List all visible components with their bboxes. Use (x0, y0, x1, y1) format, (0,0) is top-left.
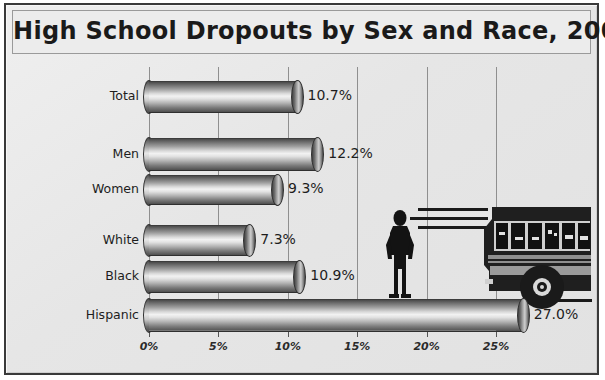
motion-lines-icon (410, 208, 488, 229)
category-label: Black (22, 268, 139, 283)
category-label: Women (22, 181, 139, 196)
x-axis-tick-label: 15% (344, 340, 370, 353)
chart-title: High School Dropouts by Sex and Race, 20… (13, 17, 590, 45)
chart-frame: High School Dropouts by Sex and Race, 20… (4, 3, 599, 375)
bar-body (149, 225, 250, 256)
value-label: 9.3% (288, 180, 324, 196)
bar-row[interactable] (149, 138, 318, 171)
person-silhouette-icon (382, 209, 418, 301)
bar-body (149, 138, 318, 171)
category-label: Hispanic (22, 307, 139, 322)
bar-body (149, 261, 300, 293)
category-label: Total (22, 88, 139, 103)
bar-row[interactable] (149, 225, 250, 256)
gridline (357, 67, 358, 329)
school-bus-icon (370, 199, 592, 311)
value-label: 12.2% (328, 145, 372, 161)
bar-body (149, 299, 524, 332)
value-label: 10.9% (310, 267, 354, 283)
bar-row[interactable] (149, 81, 298, 113)
bar-row[interactable] (149, 299, 524, 332)
x-axis-tick-label: 10% (275, 340, 301, 353)
bar-end-cap (517, 298, 530, 333)
bar-body (149, 81, 298, 113)
x-axis-tick-label: 0% (140, 340, 159, 353)
bar-end-cap (243, 224, 256, 257)
bar-end-cap (293, 260, 306, 294)
value-label: 7.3% (260, 231, 296, 247)
x-axis-tick-label: 20% (413, 340, 439, 353)
bar-row[interactable] (149, 261, 300, 293)
bar-end-cap (271, 174, 284, 206)
x-axis-tick-label: 5% (209, 340, 228, 353)
category-label: White (22, 232, 139, 247)
title-band: High School Dropouts by Sex and Race, 20… (12, 10, 591, 54)
bar-end-cap (291, 80, 304, 114)
bar-body (149, 175, 278, 205)
bar-row[interactable] (149, 175, 278, 205)
gridline (427, 67, 428, 329)
x-axis-tick-label: 25% (483, 340, 509, 353)
value-label: 27.0% (534, 306, 578, 322)
category-label: Men (22, 146, 139, 161)
x-axis-line (149, 330, 496, 331)
value-label: 10.7% (308, 87, 352, 103)
gridline (496, 67, 497, 329)
bar-end-cap (311, 137, 324, 172)
plot-area: 0%5%10%15%20%25% (12, 57, 591, 372)
